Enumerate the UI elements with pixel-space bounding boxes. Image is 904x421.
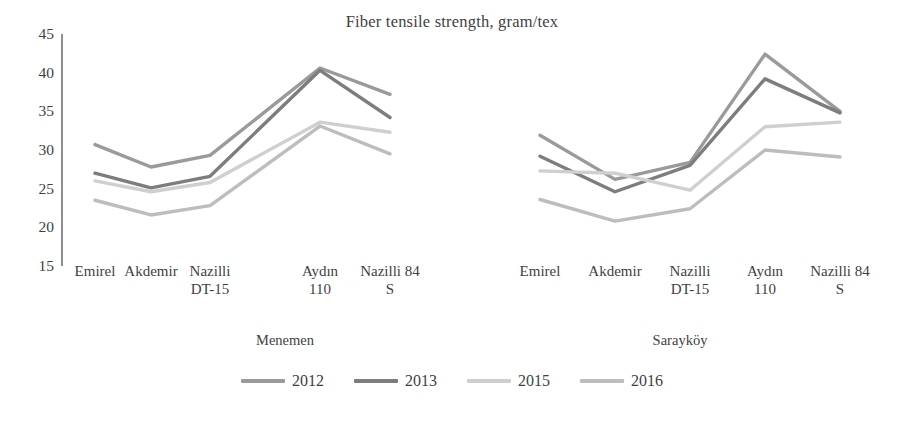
legend-item-2016[interactable]: 2016 bbox=[580, 372, 663, 390]
legend-label: 2012 bbox=[292, 372, 324, 390]
legend-swatch-icon bbox=[241, 379, 285, 383]
legend-swatch-icon bbox=[354, 379, 398, 383]
series-line-2013-group-1 bbox=[540, 79, 840, 192]
legend-swatch-icon bbox=[467, 379, 511, 383]
chart-lines bbox=[0, 34, 904, 266]
chart-title: Fiber tensile strength, gram/tex bbox=[0, 12, 904, 32]
series-line-2016-group-0 bbox=[95, 126, 390, 215]
chart-legend: 2012201320152016 bbox=[0, 372, 904, 390]
group-label: Menemen bbox=[256, 332, 314, 349]
group-axis-labels: MenemenSarayköy bbox=[0, 332, 904, 358]
legend-label: 2015 bbox=[518, 372, 550, 390]
category-label: Nazilli DT-15 bbox=[150, 262, 270, 298]
category-label: Nazilli 84 S bbox=[330, 262, 450, 298]
series-line-2015-group-1 bbox=[540, 122, 840, 190]
group-label: Sarayköy bbox=[653, 332, 708, 349]
category-label: Nazilli 84 S bbox=[780, 262, 900, 298]
legend-item-2012[interactable]: 2012 bbox=[241, 372, 324, 390]
legend-label: 2016 bbox=[631, 372, 663, 390]
chart-container: Fiber tensile strength, gram/tex 4540353… bbox=[0, 0, 904, 421]
legend-item-2015[interactable]: 2015 bbox=[467, 372, 550, 390]
plot-area: 45403530252015 bbox=[0, 34, 904, 266]
legend-swatch-icon bbox=[580, 379, 624, 383]
legend-item-2013[interactable]: 2013 bbox=[354, 372, 437, 390]
category-axis-labels: EmirelAkdemirNazilli DT-15Aydın 110Nazil… bbox=[0, 262, 904, 320]
series-line-2012-group-0 bbox=[95, 68, 390, 167]
legend-label: 2013 bbox=[405, 372, 437, 390]
series-line-2012-group-1 bbox=[540, 54, 840, 179]
